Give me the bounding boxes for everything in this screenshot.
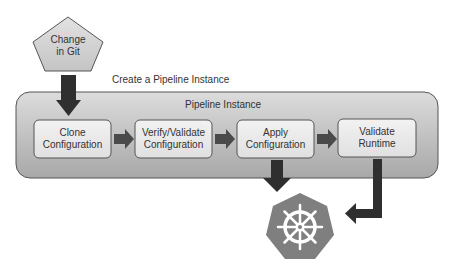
trigger-label-line2: in Git (56, 46, 79, 58)
pipeline-instance-title: Pipeline Instance (185, 99, 285, 111)
step-label-line2: Runtime (358, 138, 395, 150)
step-label-line1: Clone (59, 127, 85, 139)
step-label-validate-runtime: Validate Runtime (338, 119, 416, 157)
step-label-clone: Clone Configuration (34, 120, 111, 158)
step-label-line1: Validate (359, 126, 394, 138)
create-pipeline-label: Create a Pipeline Instance (112, 74, 242, 86)
step-label-line2: Configuration (144, 139, 203, 151)
trigger-label: Change in Git (38, 33, 98, 59)
kubernetes-icon (266, 193, 334, 259)
step-label-line1: Apply (263, 127, 288, 139)
step-label-line2: Configuration (246, 139, 305, 151)
step-label-line2: Configuration (43, 139, 102, 151)
step-label-line1: Verify/Validate (142, 127, 205, 139)
step-label-verify: Verify/Validate Configuration (135, 120, 212, 158)
trigger-label-line1: Change (50, 34, 85, 46)
step-label-apply: Apply Configuration (237, 120, 314, 158)
